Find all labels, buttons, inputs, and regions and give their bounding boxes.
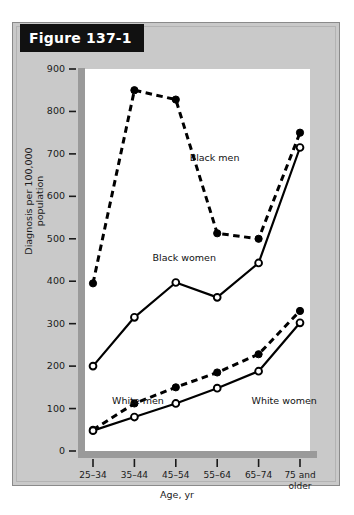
series-label: Black women [153,252,216,263]
y-axis-tick-label: 300 [31,318,65,329]
y-axis-tick-label: 800 [31,105,65,116]
data-point [89,280,96,287]
data-point [297,319,304,326]
data-point [297,144,304,151]
data-point [296,307,303,314]
y-axis-title: Diagnosis per 100,000 population [23,121,45,281]
data-point [90,427,97,434]
data-point [172,400,179,407]
data-point [90,363,97,370]
data-point [131,87,138,94]
y-axis-tick-label: 900 [31,63,65,74]
data-point [214,385,221,392]
data-point [214,230,221,237]
data-point [172,279,179,286]
data-point [255,368,262,375]
data-point [131,414,138,421]
data-point [131,314,138,321]
data-point [172,96,179,103]
series-line-3 [93,323,300,431]
figure-title-banner: Figure 137-1 [20,24,144,52]
data-point [172,384,179,391]
figure-title-label: Figure 137-1 [29,30,132,46]
x-axis-bar [78,451,317,458]
data-point [214,369,221,376]
series-label: White women [252,395,317,406]
data-point [214,294,221,301]
x-axis-title: Age, yr [0,489,354,500]
data-point [255,351,262,358]
data-point [255,235,262,242]
y-axis-bar [78,68,85,458]
figure-root: Figure 137-1 010020030040050060070080090… [0,0,354,515]
y-axis-tick-label: 100 [31,403,65,414]
data-point [255,260,262,267]
series-label: White men [112,395,164,406]
data-point [296,129,303,136]
y-axis-tick-label: 200 [31,360,65,371]
y-axis-tick-label: 0 [31,445,65,456]
series-label: Black men [190,152,240,163]
